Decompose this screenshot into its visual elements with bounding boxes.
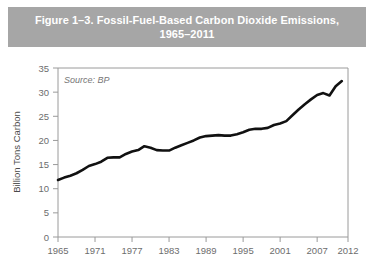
- x-tick-label: 1983: [158, 245, 179, 256]
- chart-plot-area: 0 5 10 15 20 25 30 35 Billion Tons Carbo…: [0, 47, 374, 279]
- x-tick-label: 1977: [121, 245, 142, 256]
- figure-container: Figure 1–3. Fossil-Fuel-Based Carbon Dio…: [0, 0, 374, 279]
- y-tick-label: 10: [38, 183, 49, 194]
- y-tick-label: 20: [38, 135, 49, 146]
- source-annotation: Source: BP: [64, 75, 110, 85]
- x-tick-label: 1989: [196, 245, 217, 256]
- emissions-line-series: [58, 81, 342, 180]
- y-tick-label: 25: [38, 111, 49, 122]
- figure-title-banner: Figure 1–3. Fossil-Fuel-Based Carbon Dio…: [8, 7, 366, 47]
- y-tick-label: 30: [38, 87, 49, 98]
- y-tick-label: 15: [38, 159, 49, 170]
- x-tick-label: 1965: [47, 245, 68, 256]
- x-axis-ticks: [58, 237, 348, 242]
- x-tick-label: 2007: [307, 245, 328, 256]
- x-tick-label: 2001: [270, 245, 291, 256]
- page-title: Figure 1–3. Fossil-Fuel-Based Carbon Dio…: [35, 13, 339, 41]
- x-tick-label: 2012: [337, 245, 358, 256]
- y-tick-label: 5: [44, 207, 49, 218]
- y-axis-title: Billion Tons Carbon: [11, 111, 22, 193]
- x-tick-label: 1995: [233, 245, 254, 256]
- line-chart-svg: 0 5 10 15 20 25 30 35 Billion Tons Carbo…: [0, 47, 374, 279]
- y-tick-label: 0: [44, 232, 49, 243]
- y-axis-ticks: [53, 68, 58, 237]
- y-tick-label: 35: [38, 63, 49, 74]
- x-tick-label: 1971: [84, 245, 105, 256]
- plot-frame: [58, 68, 348, 237]
